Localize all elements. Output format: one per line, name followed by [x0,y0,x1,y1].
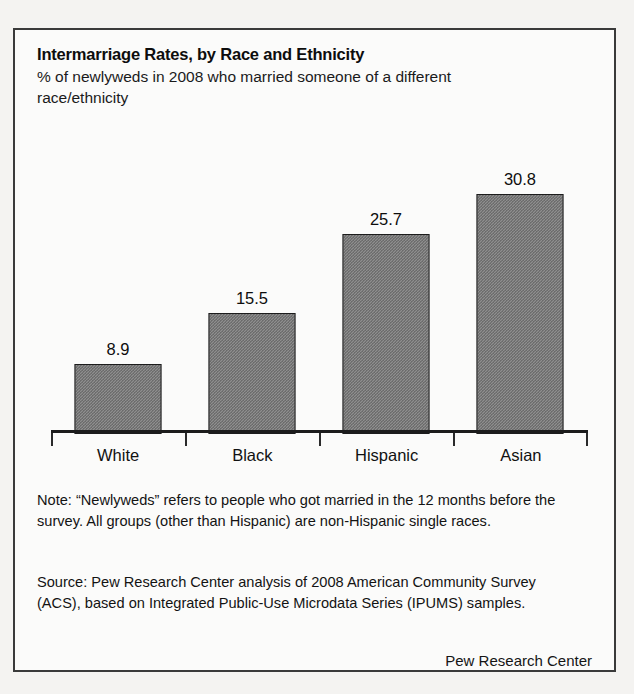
category-label-black: Black [185,446,319,465]
chart-subtitle: % of newlyweds in 2008 who married someo… [37,66,507,108]
category-label-white: White [51,446,185,465]
bar-value-black: 15.5 [209,289,296,313]
bar-white [75,364,162,434]
bar-column-black: 15.5 [209,313,296,434]
chart-credit: Pew Research Center [445,652,592,669]
bar-value-white: 8.9 [75,340,162,364]
chart-note: Note: “Newlyweds” refers to people who g… [37,490,557,532]
scanned-page: Intermarriage Rates, by Race and Ethnici… [0,0,634,694]
x-axis-tick-2 [319,433,321,446]
x-axis-category-labels: White Black Hispanic Asian [51,446,588,465]
bar-group-black: 15.5 [185,134,319,434]
bar-column-white: 8.9 [75,364,162,434]
x-axis-tick-3 [453,433,455,446]
figure-frame: Intermarriage Rates, by Race and Ethnici… [13,28,616,672]
x-axis-tick-1 [185,433,187,446]
bar-group-asian: 30.8 [453,134,587,434]
bar-value-hispanic: 25.7 [343,210,430,234]
chart-header: Intermarriage Rates, by Race and Ethnici… [37,44,587,108]
category-label-hispanic: Hispanic [320,446,454,465]
bar-asian [477,194,564,434]
chart-title: Intermarriage Rates, by Race and Ethnici… [37,44,587,64]
x-axis-tick-end [586,433,588,446]
category-label-asian: Asian [454,446,588,465]
bar-column-hispanic: 25.7 [343,234,430,434]
bar-group-white: 8.9 [51,134,185,434]
bar-chart-plot-area: 8.9 15.5 25.7 30.8 [15,134,614,434]
chart-source: Source: Pew Research Center analysis of … [37,572,577,614]
bar-hispanic [343,234,430,434]
bar-value-asian: 30.8 [477,170,564,194]
bar-column-asian: 30.8 [477,194,564,434]
x-axis-tick-start [51,433,53,446]
bar-group-hispanic: 25.7 [319,134,453,434]
bar-black [209,313,296,434]
